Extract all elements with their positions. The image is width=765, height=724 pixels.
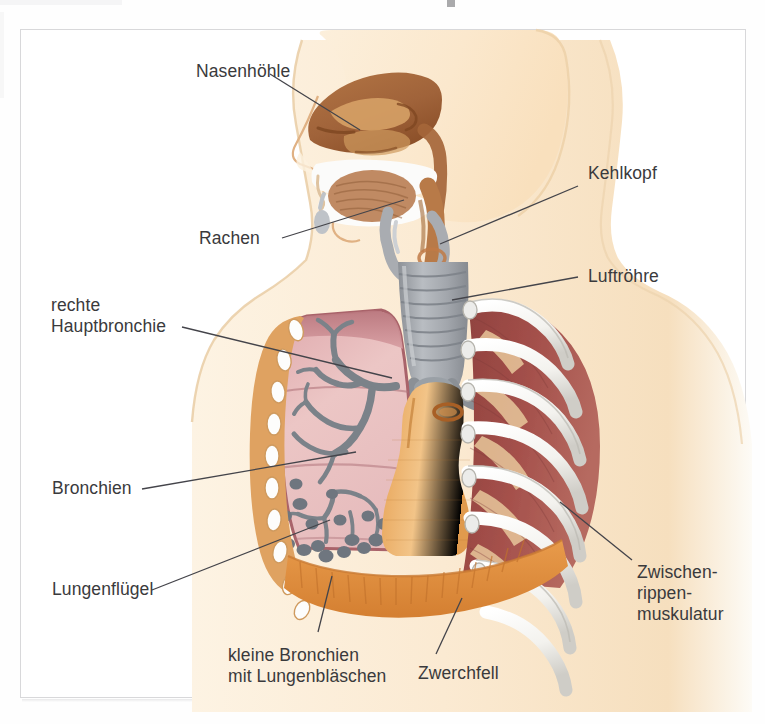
page-canvas: Nasenhöhle Rachen Kehlkopf Luftröhre rec…: [0, 0, 765, 724]
label-nasenhoehle: Nasenhöhle: [196, 61, 290, 82]
label-zwischenrippenmuskulatur-line1: Zwischen-: [637, 562, 718, 583]
label-kleine-bronchien-line2: mit Lungenbläschen: [228, 666, 386, 687]
label-luftroehre: Luftröhre: [588, 266, 659, 287]
label-zwischenrippenmuskulatur-line2: rippen-: [637, 583, 692, 604]
label-kleine-bronchien-line1: kleine Bronchien: [228, 645, 359, 666]
label-rechte-hauptbronchie-line1: rechte: [51, 295, 100, 316]
label-zwischenrippenmuskulatur-line3: muskulatur: [637, 604, 724, 625]
label-lungenfluegel: Lungenflügel: [52, 579, 153, 600]
label-zwerchfell: Zwerchfell: [418, 663, 499, 684]
label-rechte-hauptbronchie-line2: Hauptbronchie: [51, 316, 166, 337]
label-rachen: Rachen: [199, 228, 260, 249]
label-kehlkopf: Kehlkopf: [588, 163, 657, 184]
label-bronchien: Bronchien: [52, 478, 132, 499]
